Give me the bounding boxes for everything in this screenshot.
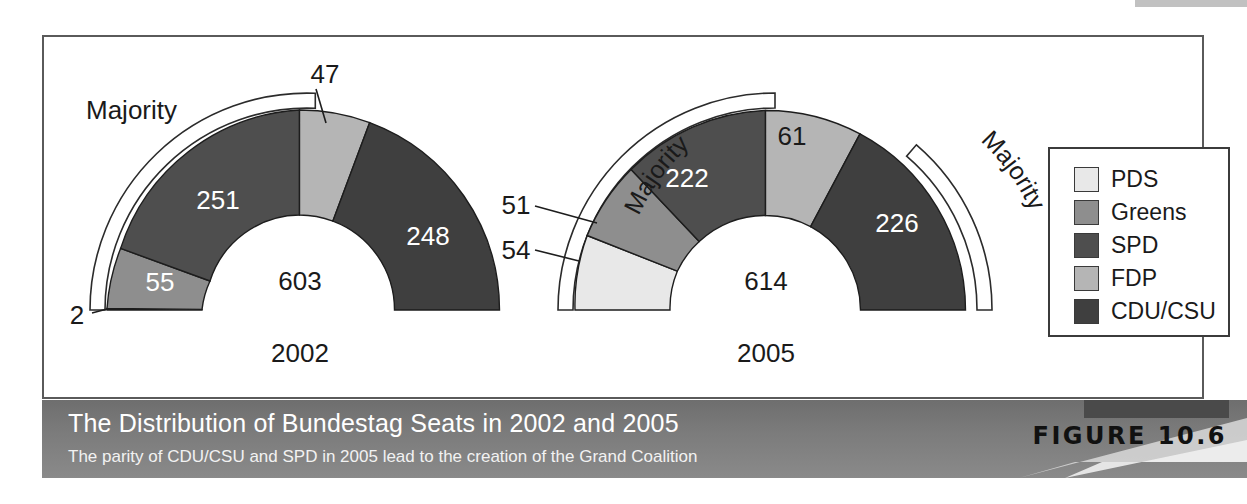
year-label-2005: 2005 <box>737 338 795 368</box>
figure-root: 251 55 248 47 2 603 Majority 2002 <box>0 0 1247 504</box>
legend-swatch-greens-icon <box>1074 200 1099 225</box>
panel-2005: 222 61 226 51 54 614 2005 Majority Major… <box>502 93 1052 368</box>
figure-caption-title: The Distribution of Bundestag Seats in 2… <box>68 409 679 438</box>
legend-label-fdp: FDP <box>1111 267 1157 290</box>
value-label-2005-greens: 51 <box>502 190 531 220</box>
value-label-2005-cducsu: 226 <box>875 208 918 238</box>
legend-item-cducsu: CDU/CSU <box>1074 295 1228 328</box>
total-label-2002: 603 <box>278 266 321 296</box>
legend-label-spd: SPD <box>1111 234 1158 257</box>
majority-label-2005-right: Majority <box>977 125 1052 215</box>
value-label-2002-pds: 2 <box>70 300 84 330</box>
year-label-2002: 2002 <box>271 338 329 368</box>
majority-label-2005-right-text: Majority <box>977 125 1052 215</box>
value-label-2005-fdp: 61 <box>778 121 807 151</box>
legend-swatch-pds-icon <box>1074 167 1099 192</box>
figure-badge-tab <box>1084 400 1229 418</box>
legend-swatch-cducsu-icon <box>1074 299 1099 324</box>
figure-caption-bar: The Distribution of Bundestag Seats in 2… <box>42 400 1247 478</box>
chart-panel: 251 55 248 47 2 603 Majority 2002 <box>42 35 1204 399</box>
value-label-2005-pds: 54 <box>502 235 531 265</box>
total-label-2005: 614 <box>744 266 787 296</box>
legend-item-spd: SPD <box>1074 229 1228 262</box>
value-label-2002-spd: 251 <box>196 185 239 215</box>
legend-label-cducsu: CDU/CSU <box>1111 300 1216 323</box>
majority-label-2002: Majority <box>86 95 177 125</box>
legend-swatch-fdp-icon <box>1074 266 1099 291</box>
legend-swatch-spd-icon <box>1074 233 1099 258</box>
value-label-2002-cducsu: 248 <box>406 221 449 251</box>
figure-number-label: FIGURE 10.6 <box>1033 422 1227 450</box>
legend-item-fdp: FDP <box>1074 262 1228 295</box>
figure-caption-subtitle: The parity of CDU/CSU and SPD in 2005 le… <box>68 447 697 467</box>
legend-label-pds: PDS <box>1111 168 1158 191</box>
legend-item-greens: Greens <box>1074 196 1228 229</box>
chart-legend: PDS Greens SPD FDP CDU/CSU <box>1048 147 1230 337</box>
scan-artifact <box>1135 0 1247 7</box>
legend-label-greens: Greens <box>1111 201 1186 224</box>
value-label-2002-greens: 55 <box>146 267 175 297</box>
legend-item-pds: PDS <box>1074 163 1228 196</box>
panel-2002: 251 55 248 47 2 603 Majority 2002 <box>70 59 500 368</box>
value-label-2002-fdp: 47 <box>311 59 340 89</box>
bundestag-seat-distribution-chart: 251 55 248 47 2 603 Majority 2002 <box>44 37 1202 397</box>
